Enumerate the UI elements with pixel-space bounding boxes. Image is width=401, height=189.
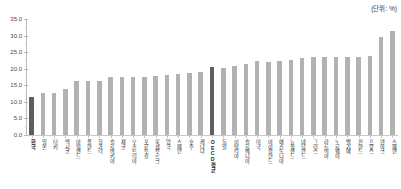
x-axis-tick <box>347 135 348 138</box>
bar <box>131 77 136 135</box>
x-axis-tick-label: 멕시코 <box>63 139 68 153</box>
x-axis-tick-label: 룩셈부르크 <box>153 139 158 163</box>
y-axis-tick <box>24 135 28 136</box>
bar <box>255 61 260 135</box>
x-axis-tick-label: 호주 <box>187 139 192 148</box>
x-axis-tick-label: 체코 <box>119 139 124 148</box>
x-axis-tick <box>133 135 134 138</box>
bar <box>97 81 102 135</box>
bar <box>356 57 361 135</box>
x-axis-tick-label: 포르투갈 <box>142 139 147 158</box>
bar-slot <box>311 19 316 135</box>
bar <box>198 72 203 135</box>
x-axis-tick-label: 스페인 <box>175 139 180 153</box>
bar-slot <box>198 19 203 135</box>
x-axis-tick <box>246 135 247 138</box>
bar-slot <box>52 19 57 135</box>
bar <box>221 68 226 135</box>
bar <box>300 58 305 135</box>
x-axis-tick <box>122 135 123 138</box>
bar-slot <box>108 19 113 135</box>
x-axis-tick <box>156 135 157 138</box>
unit-note: (단위: %) <box>371 3 397 13</box>
x-axis-tick <box>32 135 33 138</box>
x-axis-tick <box>370 135 371 138</box>
x-axis-tick <box>77 135 78 138</box>
x-axis-tick-label: 영국 <box>164 139 169 148</box>
bar-slot <box>390 19 395 135</box>
y-axis-tick-label: 20.0 <box>10 66 22 72</box>
x-axis-tick-label: 덴마크 <box>378 139 383 153</box>
x-axis-tick-label: 프랑스 <box>367 139 372 153</box>
x-axis-tick-label: OECD평균 <box>209 139 214 171</box>
bar-series <box>26 19 398 135</box>
bar-slot <box>86 19 91 135</box>
bar-slot <box>289 19 294 135</box>
bar <box>86 81 91 135</box>
bar-chart: (단위: %) 0.05.010.015.020.025.030.035.0 한… <box>0 0 401 189</box>
x-axis-tick <box>392 135 393 138</box>
bar <box>266 62 271 135</box>
x-axis-tick <box>313 135 314 138</box>
x-axis-tick <box>381 135 382 138</box>
bar-slot <box>165 19 170 135</box>
x-axis-tick-label: 캐나다 <box>198 139 203 153</box>
bar-slot <box>74 19 79 135</box>
bar-slot <box>221 19 226 135</box>
x-axis-tick <box>302 135 303 138</box>
x-axis-tick-label: 일본 <box>40 139 45 148</box>
bar-slot <box>41 19 46 135</box>
bar <box>210 67 215 135</box>
x-axis-tick <box>280 135 281 138</box>
bar-slot <box>176 19 181 135</box>
y-axis-tick-label: 0.0 <box>14 132 22 138</box>
bar-slot <box>277 19 282 135</box>
y-axis-tick-label: 10.0 <box>10 99 22 105</box>
bar-slot <box>153 19 158 135</box>
x-axis-tick-label: 아일랜드 <box>74 139 79 158</box>
x-axis-tick <box>54 135 55 138</box>
bar-slot <box>244 19 249 135</box>
bar <box>390 31 395 135</box>
x-axis-tick-label: 한국 <box>29 139 34 148</box>
x-axis-tick <box>43 135 44 138</box>
bar-slot <box>210 19 215 135</box>
x-axis-tick <box>201 135 202 138</box>
x-axis-tick-label: 그리스 <box>311 139 316 153</box>
x-axis-tick <box>223 135 224 138</box>
bar-slot <box>345 19 350 135</box>
x-axis-tick <box>167 135 168 138</box>
x-axis-tick <box>291 135 292 138</box>
x-axis-tick <box>359 135 360 138</box>
x-axis-tick-label: 슬로바키아 <box>108 139 113 163</box>
x-axis-tick <box>325 135 326 138</box>
bar <box>334 57 339 135</box>
bar <box>153 76 158 135</box>
x-axis-tick-label: 벨기에 <box>345 139 350 153</box>
x-axis-labels: 한국일본터키멕시코아일랜드폴란드헝가리슬로바키아체코오스트리아포르투갈룩셈부르크… <box>26 139 398 189</box>
bar-slot <box>232 19 237 135</box>
bar <box>41 93 46 135</box>
bar-slot <box>368 19 373 135</box>
x-axis-tick <box>178 135 179 138</box>
bar <box>232 66 237 135</box>
y-axis-tick-label: 35.0 <box>10 16 22 22</box>
bar-slot <box>300 19 305 135</box>
x-axis-tick-label: 네덜란드 <box>299 139 304 158</box>
x-axis-tick <box>212 135 213 138</box>
bar <box>379 37 384 135</box>
x-axis-tick-label: 폴란드 <box>85 139 90 153</box>
x-axis-tick <box>257 135 258 138</box>
bar-slot <box>187 19 192 135</box>
y-axis-tick-label: 5.0 <box>14 115 22 121</box>
y-axis-tick-label: 15.0 <box>10 82 22 88</box>
bar <box>108 77 113 135</box>
x-axis-tick-label: 슬로베니아 <box>243 139 248 163</box>
x-axis-tick-label: 라트비아 <box>322 139 327 158</box>
bar <box>244 64 249 135</box>
x-axis-tick-label: 헝가리 <box>97 139 102 153</box>
x-axis-tick <box>336 135 337 138</box>
bar <box>52 93 57 135</box>
x-axis-tick <box>99 135 100 138</box>
bar-slot <box>63 19 68 135</box>
